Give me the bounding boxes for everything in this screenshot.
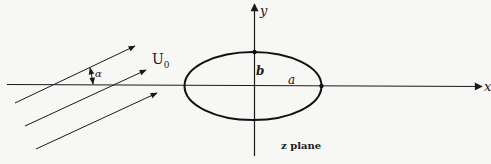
angle-alpha-arc <box>90 68 93 84</box>
x-axis-label: x <box>484 80 491 93</box>
plane-label: z plane <box>281 141 321 151</box>
velocity-label: U0 <box>152 52 170 70</box>
y-axis-label: y <box>260 4 267 17</box>
flow-arrow-3 <box>36 93 157 149</box>
velocity-subscript: 0 <box>164 60 170 70</box>
ellipse-top-vertex <box>252 50 256 54</box>
semi-major-axis-label: a <box>288 74 295 86</box>
angle-alpha-label: α <box>95 69 102 79</box>
x-axis <box>7 85 482 87</box>
flow-arrow-1 <box>15 46 135 103</box>
ellipse-right-vertex <box>319 84 323 88</box>
flow-arrow-2 <box>25 70 146 126</box>
flow-diagram <box>0 0 491 164</box>
velocity-symbol: U <box>152 51 164 67</box>
semi-minor-axis-label: b <box>256 65 264 77</box>
